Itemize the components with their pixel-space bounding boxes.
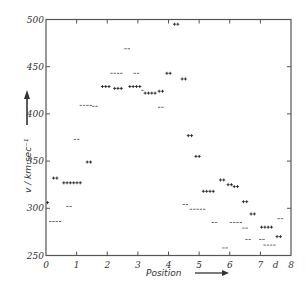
plus-point <box>79 181 82 184</box>
plus-point <box>236 185 239 188</box>
x-tick-label: 1 <box>74 260 80 270</box>
plus-point <box>55 177 58 180</box>
plus-point <box>62 181 65 184</box>
x-tick-label: 6 <box>227 260 233 270</box>
plus-point <box>147 92 150 95</box>
y-axis: 250300350400450500 <box>26 15 291 261</box>
plus-point <box>69 181 72 184</box>
plus-point <box>263 226 266 229</box>
plus-point <box>144 92 147 95</box>
x-tick-label: 7 <box>258 260 264 270</box>
y-tick-label: 500 <box>27 15 44 25</box>
x-axis-title: Position <box>146 268 182 278</box>
plus-point <box>150 92 153 95</box>
plus-point <box>279 235 282 238</box>
plus-point <box>138 85 141 88</box>
plus-point <box>116 87 119 90</box>
plus-point <box>242 200 245 203</box>
x-tick-label: 0 <box>43 260 49 270</box>
plus-point <box>276 235 279 238</box>
plus-point <box>158 90 161 93</box>
plus-point <box>101 85 104 88</box>
plus-point <box>250 212 253 215</box>
plot-border <box>46 20 291 256</box>
plus-point <box>173 23 176 26</box>
plus-point <box>86 161 89 164</box>
plus-point <box>233 185 236 188</box>
data-marks <box>46 23 283 248</box>
plus-point <box>52 177 55 180</box>
x-tick-label: 3 <box>135 260 141 270</box>
x-tick-label: 5 <box>196 260 202 270</box>
plus-point <box>120 87 123 90</box>
plus-point <box>245 200 248 203</box>
plus-point <box>202 190 205 193</box>
plus-point <box>154 92 157 95</box>
plus-point <box>212 190 215 193</box>
plus-point <box>181 77 184 80</box>
plus-point <box>66 181 69 184</box>
plus-point <box>227 183 230 186</box>
plus-point <box>190 134 193 137</box>
plus-point <box>194 155 197 158</box>
plus-point <box>165 72 168 75</box>
plus-point <box>176 23 179 26</box>
plus-point <box>260 226 263 229</box>
plus-point <box>132 85 135 88</box>
plus-point <box>187 134 190 137</box>
plus-point <box>161 90 164 93</box>
x-tick-label: d <box>273 260 279 270</box>
plus-point <box>198 155 201 158</box>
plus-point <box>230 183 233 186</box>
plus-point <box>135 85 138 88</box>
plus-point <box>208 190 211 193</box>
plus-point <box>89 161 92 164</box>
y-axis-title: v / km sec⁻¹ <box>23 138 33 193</box>
plot-frame <box>46 20 291 256</box>
plus-point <box>128 85 131 88</box>
plus-point <box>169 72 172 75</box>
scatter-chart: 250300350400450500 01234567d8 Position v… <box>0 0 307 290</box>
x-tick-label: 8 <box>288 260 294 270</box>
plus-point <box>219 178 222 181</box>
plus-point <box>104 85 107 88</box>
y-tick-label: 450 <box>26 62 44 72</box>
y-tick-label: 250 <box>26 251 44 261</box>
plus-point <box>253 212 256 215</box>
plus-point <box>113 87 116 90</box>
x-axis: 01234567d8 <box>43 20 294 270</box>
plus-point <box>222 178 225 181</box>
plus-point <box>184 77 187 80</box>
plus-point <box>267 226 270 229</box>
plus-point <box>270 226 273 229</box>
plus-point <box>205 190 208 193</box>
x-tick-label: 2 <box>103 260 110 270</box>
y-tick-label: 400 <box>26 109 44 119</box>
plus-point <box>75 181 78 184</box>
y-axis-arrow <box>24 90 30 125</box>
plus-point <box>108 85 111 88</box>
y-tick-label: 300 <box>27 203 44 213</box>
plus-point <box>72 181 75 184</box>
x-axis-arrow <box>195 270 229 276</box>
